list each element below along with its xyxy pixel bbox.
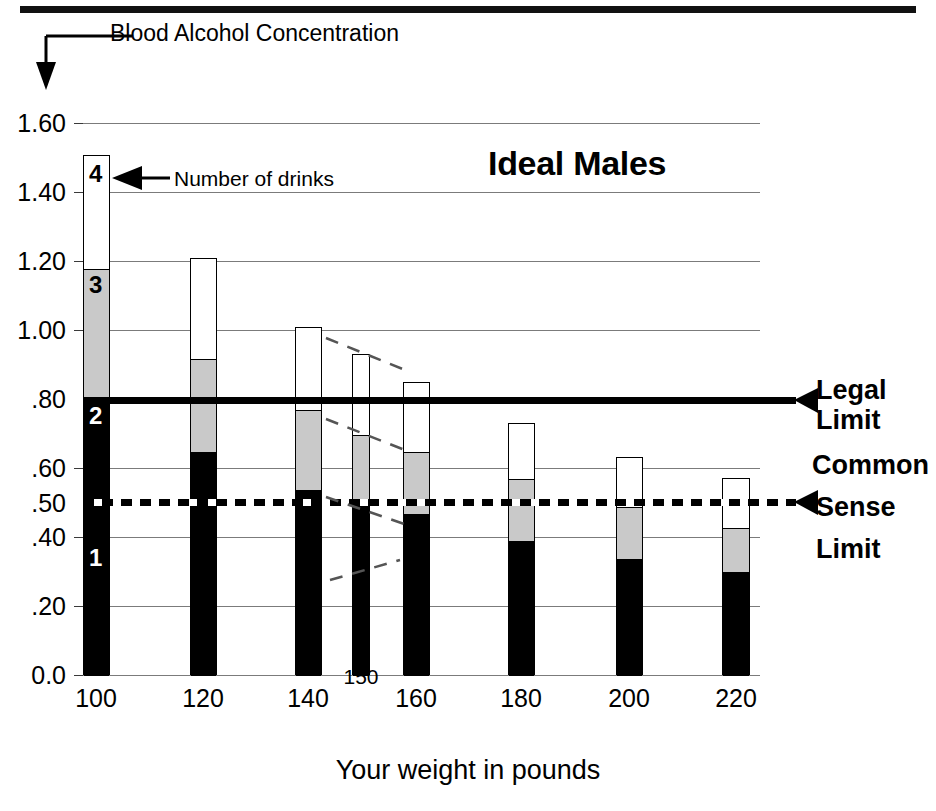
- bar-120-seg-3: [191, 359, 216, 452]
- bar-100-drink-label-3: 3: [89, 273, 102, 297]
- ytick-label-1-00: 1.00: [0, 318, 66, 343]
- xtick-label-120: 120: [173, 686, 233, 711]
- ytick-label-1-60: 1.60: [0, 111, 66, 136]
- xtick-label-200: 200: [599, 686, 659, 711]
- legal-limit-arrowhead: [794, 388, 818, 413]
- xtick-label-150: 150: [331, 664, 391, 689]
- xtick-label-180: 180: [491, 686, 551, 711]
- bar-120-seg-4: [191, 259, 216, 359]
- x-axis-title: Your weight in pounds: [0, 757, 936, 784]
- bar-180[interactable]: [508, 423, 535, 675]
- gridline-1-00: [83, 330, 760, 331]
- bar-220-seg-1: [723, 572, 749, 676]
- common-sense-label-common: Common: [812, 450, 929, 480]
- bar-140-seg-1: [296, 569, 321, 676]
- drinks-callout-arrow: [112, 166, 170, 190]
- chart-title: Ideal Males: [488, 146, 666, 180]
- legal-limit-label-line2: Limit: [816, 405, 881, 435]
- ytick-label-0-80: .80: [0, 387, 66, 412]
- ytick-label-1-40: 1.40: [0, 180, 66, 205]
- ytick-label-1-20: 1.20: [0, 249, 66, 274]
- bar-160[interactable]: [403, 382, 430, 675]
- common-sense-label-limit: Limit: [816, 534, 881, 564]
- bar-180-seg-4: [509, 424, 534, 479]
- bar-120[interactable]: [190, 258, 217, 675]
- ytick-label-0-60: .60: [0, 456, 66, 481]
- bar-200-seg-1: [617, 559, 642, 676]
- bar-150-seg-1: [353, 500, 369, 676]
- annotation-overlay: [0, 0, 936, 811]
- bar-140-seg-3: [296, 410, 321, 490]
- ytick-mark-0-60: [74, 468, 83, 469]
- bar-100-drink-label-2: 2: [89, 404, 102, 428]
- gridline-1-20: [83, 261, 760, 262]
- bar-180-seg-1: [509, 541, 534, 676]
- bar-220-seg-3: [723, 528, 749, 572]
- gridline-1-40: [83, 192, 760, 193]
- bar-150-seg-3: [353, 435, 369, 500]
- bar-150-seg-4: [353, 355, 369, 435]
- gridline-1-60: [83, 123, 760, 124]
- ytick-mark-0-40: [74, 537, 83, 538]
- bar-220[interactable]: [722, 478, 750, 675]
- ytick-label-0-40: .40: [0, 525, 66, 550]
- bar-160-seg-1: [404, 514, 429, 676]
- bar-100-drink-label-4: 4: [89, 162, 102, 186]
- xtick-label-220: 220: [706, 686, 766, 711]
- common-sense-limit-line: [83, 499, 796, 506]
- legal-limit-label-line1: Legal: [816, 375, 887, 405]
- legal-limit-line: [83, 397, 796, 404]
- bar-180-seg-3: [509, 479, 534, 541]
- bar-200[interactable]: [616, 457, 643, 675]
- top-divider-rule: [20, 6, 916, 13]
- ytick-mark-1-40: [74, 192, 83, 193]
- ytick-mark-1-00: [74, 330, 83, 331]
- xtick-label-160: 160: [386, 686, 446, 711]
- ytick-label-0-20: .20: [0, 594, 66, 619]
- ytick-mark-0-00: [74, 675, 83, 676]
- ytick-mark-0-20: [74, 606, 83, 607]
- bar-200-seg-3: [617, 507, 642, 559]
- ytick-label-0-00: 0.0: [0, 663, 66, 688]
- bar-160-seg-4: [404, 383, 429, 452]
- ytick-mark-1-60: [74, 123, 83, 124]
- bar-120-seg-1: [191, 555, 216, 676]
- ytick-mark-1-20: [74, 261, 83, 262]
- xtick-label-140: 140: [278, 686, 338, 711]
- bar-100-drink-label-1: 1: [89, 546, 102, 570]
- drinks-annotation-label: Number of drinks: [174, 168, 334, 189]
- xtick-label-100: 100: [66, 686, 126, 711]
- bac-axis-label: Blood Alcohol Concentration: [110, 22, 399, 45]
- ytick-label-0-50: .50: [0, 491, 66, 516]
- common-sense-arrowhead: [794, 490, 818, 515]
- common-sense-label-sense: Sense: [816, 492, 896, 522]
